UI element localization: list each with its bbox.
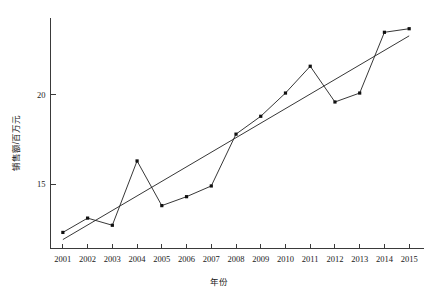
data-point-marker [333,100,336,103]
data-point-marker [160,204,163,207]
data-point-marker [86,217,89,220]
x-tick-label: 2001 [54,254,71,264]
x-tick-label: 2011 [302,254,319,264]
data-point-marker [309,65,312,68]
x-tick-label: 2012 [326,254,343,264]
data-point-marker [284,91,287,94]
data-point-marker [61,231,64,234]
data-point-marker [185,195,188,198]
x-tick-label: 2013 [351,254,368,264]
data-point-marker [111,224,114,227]
sales-series-line [63,29,409,233]
x-tick-label: 2003 [104,254,121,264]
x-axis-ticks: 2001200220032004200520062007200820092010… [54,244,417,264]
chart-figure: 1520 20012002200320042005200620072008200… [0,0,433,298]
data-point-marker [210,184,213,187]
data-point-marker [135,159,138,162]
x-tick-label: 2009 [252,254,269,264]
x-tick-label: 2008 [228,254,245,264]
y-axis-title: 销售额/百万元 [11,115,21,171]
y-axis-ticks: 1520 [37,90,56,189]
sales-series-markers [61,27,410,234]
x-tick-label: 2002 [79,254,96,264]
x-axis-title: 年份 [210,277,228,287]
x-tick-label: 2006 [178,254,195,264]
x-tick-label: 2007 [203,254,220,264]
line-chart-canvas: 1520 20012002200320042005200620072008200… [0,0,433,298]
data-point-marker [234,133,237,136]
x-tick-label: 2010 [277,254,294,264]
data-point-marker [259,115,262,118]
data-point-marker [408,27,411,30]
y-tick-label: 15 [37,179,46,189]
x-tick-label: 2014 [376,254,394,264]
trend-line [63,36,409,240]
x-tick-label: 2015 [401,254,418,264]
x-tick-label: 2005 [153,254,170,264]
data-point-marker [383,31,386,34]
data-point-marker [358,91,361,94]
y-tick-label: 20 [37,90,46,100]
x-tick-label: 2004 [129,254,147,264]
